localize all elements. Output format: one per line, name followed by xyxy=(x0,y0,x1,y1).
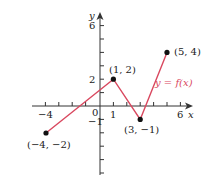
tick-x-neg4: −4 xyxy=(38,109,53,120)
point-a-label: (−4, −2) xyxy=(27,139,71,150)
tick-x-1: 1 xyxy=(110,109,116,120)
origin-label: 0 xyxy=(92,107,98,118)
point-c-label: (3, −1) xyxy=(124,124,159,135)
point-d-label: (5, 4) xyxy=(174,46,201,57)
point-b-label: (1, 2) xyxy=(109,64,136,75)
tick-y-2: 2 xyxy=(89,74,95,85)
x-ticks xyxy=(45,102,180,106)
tick-y-6: 6 xyxy=(89,20,95,31)
function-graph: y x 6 2 −1 0 −4 1 6 (−4, −2) (1, 2) (3, … xyxy=(0,0,213,185)
function-curve xyxy=(46,52,167,133)
point-b xyxy=(111,77,116,82)
axes xyxy=(32,16,190,175)
point-d xyxy=(164,50,169,55)
x-axis-label: x xyxy=(188,109,194,120)
curve-label: y = f(x) xyxy=(154,77,193,88)
point-a xyxy=(43,130,48,135)
point-c xyxy=(138,117,143,122)
tick-x-6: 6 xyxy=(177,109,183,120)
y-ticks xyxy=(100,26,104,173)
